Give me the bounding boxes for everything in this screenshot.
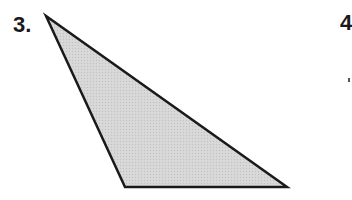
partial-figure-mark [348, 78, 350, 82]
shaded-triangle [46, 16, 287, 187]
problem-number-4: 4 [340, 12, 352, 34]
